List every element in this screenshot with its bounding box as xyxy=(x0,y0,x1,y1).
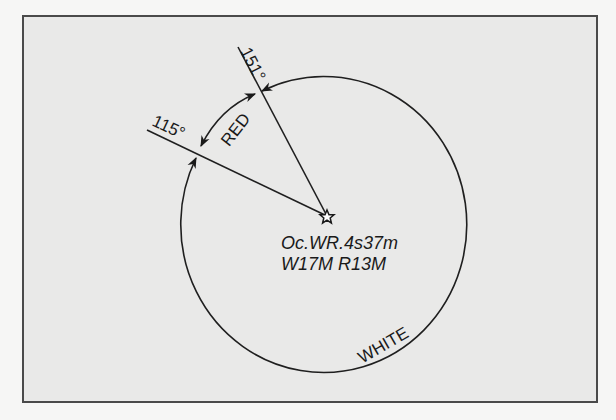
light-characteristic-line1: Oc.WR.4s37m xyxy=(281,233,398,253)
star-icon xyxy=(320,210,334,223)
sector-label-white: WHITE xyxy=(355,323,412,367)
light-sector-diagram: 151° 115° RED WHITE Oc.WR.4s37m W17M R13… xyxy=(0,0,616,420)
page: 151° 115° RED WHITE Oc.WR.4s37m W17M R13… xyxy=(0,0,616,420)
light-characteristic-line2: W17M R13M xyxy=(281,254,386,274)
bearing-label-115: 115° xyxy=(149,111,188,143)
bearing-label-151: 151° xyxy=(236,44,269,84)
white-sector-arc xyxy=(181,76,467,372)
